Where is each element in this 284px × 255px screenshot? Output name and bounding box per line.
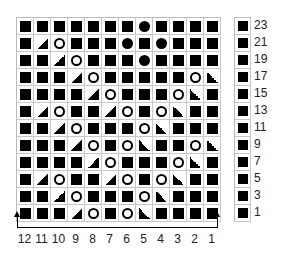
chart-cell: [136, 171, 153, 188]
chart-cell: [136, 137, 153, 154]
chart-cell: [119, 86, 136, 103]
knit-square-icon: [207, 106, 218, 117]
knit-square-icon: [156, 72, 167, 83]
chart-cell: [187, 120, 204, 137]
knit-square-icon: [173, 21, 184, 32]
row-number: 15: [254, 85, 267, 102]
chart-cell: [187, 18, 204, 35]
k2tog-triangle-icon: [105, 106, 116, 117]
chart-cell: [68, 171, 85, 188]
chart-cell: [68, 188, 85, 205]
yarn-over-circle-icon: [71, 191, 82, 202]
chart-cell: [153, 18, 170, 35]
chart-cell: [136, 18, 153, 35]
k2tog-triangle-icon: [88, 89, 99, 100]
knit-square-icon: [122, 123, 133, 134]
chart-cell: [102, 52, 119, 69]
knit-square-icon: [190, 208, 201, 219]
knit-square-icon: [105, 208, 116, 219]
ssk-triangle-icon: [139, 140, 150, 151]
knit-square-icon: [156, 89, 167, 100]
knit-square-icon: [207, 174, 218, 185]
column-number: 10: [50, 232, 67, 246]
chart-cell: [51, 18, 68, 35]
chart-cell: [136, 69, 153, 86]
chart-cell: [51, 86, 68, 103]
knit-square-icon: [139, 89, 150, 100]
chart-cell: [119, 35, 136, 52]
knit-square-icon: [238, 191, 248, 201]
knit-square-icon: [20, 174, 31, 185]
knit-square-icon: [54, 21, 65, 32]
ssk-triangle-icon: [173, 174, 184, 185]
chart-cell: [204, 171, 221, 188]
chart-cell: [17, 103, 34, 120]
k2tog-triangle-icon: [37, 174, 48, 185]
chart-cell: [51, 52, 68, 69]
chart-cell: [119, 103, 136, 120]
knit-square-icon: [54, 208, 65, 219]
chart-cell: [153, 171, 170, 188]
knit-square-icon: [190, 174, 201, 185]
knit-square-icon: [238, 140, 248, 150]
chart-cell: [17, 52, 34, 69]
k2tog-triangle-icon: [105, 174, 116, 185]
knit-square-icon: [190, 191, 201, 202]
chart-cell: [170, 171, 187, 188]
row-number: 1: [254, 204, 261, 221]
knit-square-icon: [156, 208, 167, 219]
knit-square-icon: [88, 191, 99, 202]
row-marker-cell: [235, 205, 251, 222]
chart-cell: [34, 205, 51, 222]
k2tog-triangle-icon: [71, 208, 82, 219]
knit-square-icon: [122, 21, 133, 32]
chart-cell: [17, 18, 34, 35]
chart-cell: [102, 69, 119, 86]
knit-square-icon: [122, 157, 133, 168]
row-number: 7: [254, 153, 261, 170]
knit-square-icon: [37, 89, 48, 100]
row-number: 23: [254, 17, 267, 34]
knit-square-icon: [37, 191, 48, 202]
chart-cell: [51, 171, 68, 188]
knit-square-icon: [88, 123, 99, 134]
knit-square-icon: [105, 38, 116, 49]
knit-square-icon: [173, 191, 184, 202]
chart-cell: [170, 69, 187, 86]
knit-square-icon: [88, 21, 99, 32]
chart-cell: [34, 18, 51, 35]
chart-cell: [51, 154, 68, 171]
chart-cell: [187, 205, 204, 222]
knit-square-icon: [190, 123, 201, 134]
ssk-triangle-icon: [190, 89, 201, 100]
chart-cell: [204, 103, 221, 120]
chart-cell: [187, 52, 204, 69]
chart-cell: [204, 69, 221, 86]
chart-cell: [17, 188, 34, 205]
ssk-triangle-icon: [139, 208, 150, 219]
column-number: 1: [203, 232, 220, 246]
chart-cell: [102, 18, 119, 35]
chart-cell: [187, 154, 204, 171]
chart-cell: [187, 137, 204, 154]
knit-square-icon: [54, 72, 65, 83]
chart-cell: [170, 188, 187, 205]
column-number: 2: [186, 232, 203, 246]
lozenge-icon: [139, 21, 150, 32]
knit-square-icon: [71, 89, 82, 100]
k2tog-triangle-icon: [37, 106, 48, 117]
chart-cell: [136, 188, 153, 205]
knit-square-icon: [238, 55, 248, 65]
chart-cell: [34, 86, 51, 103]
knit-square-icon: [71, 38, 82, 49]
k2tog-triangle-icon: [88, 157, 99, 168]
wrong-side-rows-column: [234, 17, 251, 222]
yarn-over-circle-icon: [54, 174, 65, 185]
chart-cell: [85, 137, 102, 154]
row-marker-cell: [235, 35, 251, 52]
row-marker-cell: [235, 69, 251, 86]
chart-cell: [187, 69, 204, 86]
row-number: 3: [254, 187, 261, 204]
knit-square-icon: [37, 123, 48, 134]
knit-square-icon: [105, 140, 116, 151]
